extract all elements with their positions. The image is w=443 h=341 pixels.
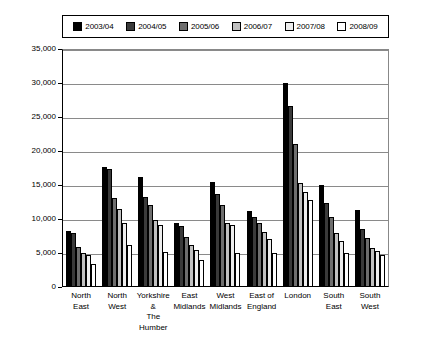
- legend-label: 2006/07: [244, 22, 272, 31]
- x-axis-label: North East: [63, 291, 99, 333]
- bar-group: [171, 50, 207, 287]
- bar: [380, 255, 385, 287]
- y-axis-tick-label: 35,000: [0, 45, 56, 53]
- bar-group: [207, 50, 243, 287]
- bar-group: [316, 50, 352, 287]
- legend-swatch: [232, 22, 241, 31]
- bar: [163, 252, 168, 287]
- legend-swatch: [285, 22, 294, 31]
- legend-item: 2006/07: [232, 22, 272, 31]
- x-axis-label: Yorkshire & The Humber: [135, 291, 171, 333]
- legend-label: 2008/09: [349, 22, 377, 31]
- y-axis-tick-label: 5,000: [0, 249, 56, 257]
- bar: [344, 253, 349, 287]
- bar-group: [280, 50, 316, 287]
- y-axis-tick-label: 30,000: [0, 79, 56, 87]
- legend-swatch: [337, 22, 346, 31]
- y-axis-tick-label: 0: [0, 283, 56, 291]
- bar: [272, 253, 277, 287]
- bar: [308, 200, 313, 287]
- y-axis-tick-label: 10,000: [0, 215, 56, 223]
- x-axis-label: North West: [99, 291, 135, 333]
- legend-item: 2007/08: [285, 22, 325, 31]
- bar-groups: [63, 50, 388, 287]
- bar: [91, 264, 96, 287]
- bar: [235, 253, 240, 287]
- x-axis-label: South West: [352, 291, 388, 333]
- legend-label: 2005/06: [191, 22, 219, 31]
- bar-group: [135, 50, 171, 287]
- bar-group: [63, 50, 99, 287]
- legend-label: 2007/08: [297, 22, 325, 31]
- x-axis-label: West Midlands: [207, 291, 243, 333]
- legend-label: 2003/04: [85, 22, 113, 31]
- x-axis-label: South East: [316, 291, 352, 333]
- bar-group: [99, 50, 135, 287]
- y-axis-tick-label: 25,000: [0, 113, 56, 121]
- bar-group: [244, 50, 280, 287]
- legend-item: 2008/09: [337, 22, 377, 31]
- legend-label: 2004/05: [138, 22, 166, 31]
- x-axis-label: East of England: [244, 291, 280, 333]
- y-axis-tick-label: 15,000: [0, 181, 56, 189]
- bar: [127, 245, 132, 287]
- y-axis-tick-mark: [58, 287, 62, 288]
- legend-item: 2003/04: [73, 22, 113, 31]
- chart-legend: 2003/042004/052005/062006/072007/082008/…: [62, 15, 389, 38]
- bar: [199, 260, 204, 287]
- bar-group: [352, 50, 388, 287]
- legend-swatch: [73, 22, 82, 31]
- y-axis-tick-label: 20,000: [0, 147, 56, 155]
- legend-item: 2004/05: [126, 22, 166, 31]
- x-axis-labels: North EastNorth WestYorkshire & The Humb…: [63, 291, 388, 333]
- bar-chart: 2003/042004/052005/062006/072007/082008/…: [0, 0, 443, 341]
- legend-item: 2005/06: [179, 22, 219, 31]
- x-axis-label: London: [280, 291, 316, 333]
- x-axis-label: East Midlands: [171, 291, 207, 333]
- legend-swatch: [179, 22, 188, 31]
- legend-swatch: [126, 22, 135, 31]
